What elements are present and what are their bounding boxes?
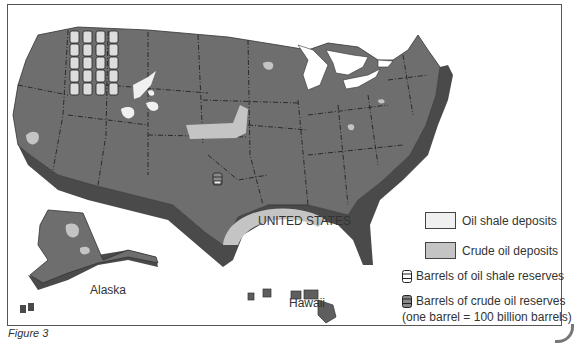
crude-oil-barrel [213,173,222,185]
alaska-label: Alaska [90,283,126,297]
legend-item-crude-oil-barrels: Barrels of crude oil reserves [402,294,565,308]
page-corner-decoration [555,324,574,343]
legend-item-crude-oil-deposits: Crude oil deposits [425,242,558,259]
crude-oil-barrel-icon [402,295,412,308]
legend-item-oil-shale-barrels: Barrels of oil shale reserves [402,269,564,283]
legend-note: (one barrel = 100 billion barrels) [402,310,572,324]
hawaii-label: Hawaii [289,296,325,310]
legend-label: Barrels of oil shale reserves [416,269,564,283]
figure-caption: Figure 3 [8,327,48,339]
oil-shale-barrel-icon [402,270,412,283]
crude-oil-swatch-icon [425,242,456,259]
legend-label: Oil shale deposits [462,214,557,228]
oil-shale-swatch-icon [425,212,456,229]
country-label: UNITED STATES [258,214,351,228]
legend-item-oil-shale-deposits: Oil shale deposits [425,212,557,229]
legend-label: Barrels of crude oil reserves [416,294,565,308]
map-frame: UNITED STATES Alaska Hawaii Oil shale de… [7,4,562,326]
legend-label: Crude oil deposits [462,244,558,258]
alaska [30,210,158,283]
